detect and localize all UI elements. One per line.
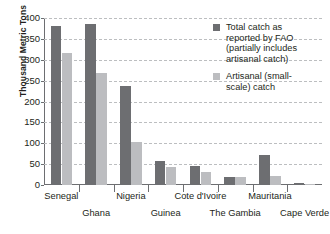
bar-chart: Thousand Metric Tons 0501001502002503003… [0,0,330,234]
bar [259,155,270,185]
y-tick-mark [41,164,44,165]
y-tick-mark [41,18,44,19]
legend-label: artisanal catch) [226,54,327,65]
x-axis-label: Ghana [82,209,110,218]
y-tick-label: 250 [0,76,40,86]
y-tick-label: 50 [0,159,40,169]
bar [85,24,96,185]
x-axis-labels: SenegalGhanaNigeriaGuineaCote d'IvoireTh… [44,186,322,230]
gridline [44,18,322,19]
legend-label: reported by FAO [226,33,327,44]
bar [201,172,212,185]
y-tick-mark [41,143,44,144]
x-axis-label: Cape Verde [280,209,329,218]
y-tick-label: 100 [0,139,40,149]
bar [131,142,142,185]
x-axis-label: Guinea [151,209,181,218]
x-axis-label: Mauritania [248,192,291,201]
bar [96,73,107,185]
y-tick-mark [41,81,44,82]
footer-partial-text [4,229,194,234]
legend-label: scale) catch [226,82,327,93]
y-tick-mark [41,102,44,103]
bar [62,53,73,185]
legend-swatch-icon [213,73,220,80]
bar [155,161,166,185]
bar [235,177,246,185]
bar [294,183,305,185]
legend-label: (partially includes [226,43,327,54]
x-axis-label: Nigeria [116,192,145,201]
legend-item[interactable]: Artisanal (small-scale) catch [213,71,327,92]
y-tick-label: 300 [0,55,40,65]
bar [224,177,235,185]
y-tick-label: 200 [0,97,40,107]
x-axis-label: Cote d'Ivoire [174,192,226,201]
legend-swatch-icon [213,24,220,31]
legend-label: Artisanal (small- [226,71,327,82]
y-tick-mark [41,39,44,40]
legend-label: Total catch as [226,22,327,33]
chart-legend: Total catch asreported by FAO(partially … [213,22,327,100]
bar [51,26,62,185]
bar [120,86,131,185]
legend-item[interactable]: Total catch asreported by FAO(partially … [213,22,327,64]
y-tick-mark [41,122,44,123]
bar [305,184,316,185]
x-axis-label: Senegal [44,192,78,201]
y-tick-label: 350 [0,34,40,44]
y-tick-label: 0 [0,180,40,190]
y-tick-mark [41,60,44,61]
y-tick-label: 400 [0,13,40,23]
bar [166,167,177,185]
y-tick-label: 150 [0,118,40,128]
bar [270,176,281,185]
x-axis-label: The Gambia [210,209,261,218]
bar [190,166,201,185]
